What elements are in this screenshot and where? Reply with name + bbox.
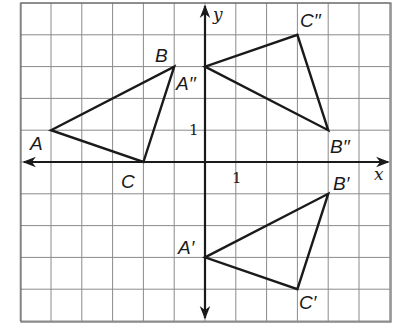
label-b: B [155, 45, 168, 66]
label-b-double-prime: B′′ [330, 136, 351, 157]
label-c: C [121, 171, 135, 192]
label-b-prime: B′ [333, 173, 351, 194]
label-a: A [29, 133, 43, 154]
x-axis-label: x [374, 164, 384, 184]
label-c-double-prime: C′′ [300, 10, 322, 31]
label-c-prime: C′ [299, 292, 318, 313]
label-a-double-prime: A′′ [175, 73, 197, 94]
label-a-prime: A′ [177, 237, 196, 258]
y-axis-label: y [212, 4, 223, 24]
coordinate-plane: x y 1 1 A B C A′ B′ C′ A′′ B′′ C′′ [0, 0, 393, 333]
x-tick-label-1: 1 [232, 169, 242, 187]
y-tick-label-1: 1 [189, 121, 199, 139]
